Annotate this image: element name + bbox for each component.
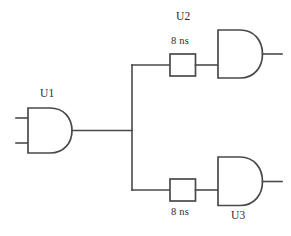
gate-label-u2: U2 [176, 11, 190, 23]
gate-label-u1: U1 [40, 88, 54, 100]
delay-element-upper-box[interactable] [170, 54, 196, 76]
and-gate-u3-body[interactable] [218, 157, 263, 206]
schematic-drawing [0, 0, 291, 236]
delay-label-upper: 8 ns [171, 36, 189, 47]
and-gate-u2-body[interactable] [218, 30, 263, 78]
delay-element-lower-box[interactable] [170, 179, 196, 201]
diagram-canvas: U1 U2 8 ns 8 ns U3 [0, 0, 291, 236]
and-gate-u1-body[interactable] [28, 108, 72, 153]
gate-label-u3: U3 [231, 210, 245, 222]
delay-label-lower: 8 ns [171, 207, 189, 218]
